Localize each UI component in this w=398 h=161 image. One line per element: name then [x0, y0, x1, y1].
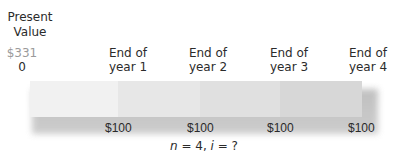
present-value-title-line1: Present: [6, 10, 54, 25]
header-line2: year 1: [93, 60, 163, 74]
header-year-2: End of year 2: [173, 46, 243, 74]
present-value-title-line2: Value: [6, 25, 54, 40]
time-zero-label: 0: [4, 60, 40, 74]
present-value-title: Present Value: [6, 10, 54, 40]
timeline-segment-year-2: [118, 81, 200, 117]
formula: n = 4, i = ?: [170, 139, 238, 153]
i-value: = ?: [214, 139, 238, 153]
header-line1: End of: [173, 46, 243, 60]
header-line1: End of: [254, 46, 324, 60]
cash-flow-year-3: $100: [267, 121, 294, 135]
timeline-segment-year-1: [30, 81, 118, 117]
header-line2: year 2: [173, 60, 243, 74]
header-year-1: End of year 1: [93, 46, 163, 74]
timeline-segment-year-3: [200, 81, 280, 117]
n-variable: n: [170, 139, 178, 153]
cash-flow-year-4: $100: [348, 121, 375, 135]
header-line2: year 3: [254, 60, 324, 74]
timeline-bar: [30, 81, 362, 117]
header-year-3: End of year 3: [254, 46, 324, 74]
header-line2: year 4: [333, 60, 398, 74]
header-line1: End of: [333, 46, 398, 60]
header-line1: End of: [93, 46, 163, 60]
header-year-4: End of year 4: [333, 46, 398, 74]
n-value: = 4,: [178, 139, 211, 153]
timeline-segment-year-4: [280, 81, 362, 117]
cash-flow-year-1: $100: [105, 121, 132, 135]
cash-flow-year-2: $100: [187, 121, 214, 135]
present-value-amount: $331: [4, 46, 40, 60]
